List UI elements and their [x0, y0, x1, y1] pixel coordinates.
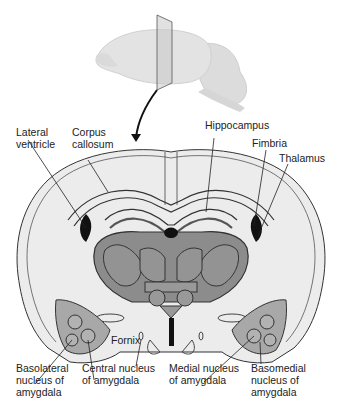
label-thalamus: Thalamus — [279, 152, 325, 164]
section-plane-icon — [157, 15, 172, 90]
label-fimbria: Fimbria — [252, 137, 287, 149]
label-basolateral-nucleus: Basolateral nucleus of amygdala — [16, 362, 69, 398]
arrow-icon — [136, 90, 157, 138]
label-hippocampus: Hippocampus — [205, 119, 269, 131]
label-central-nucleus: Central nucleus of amygdala — [82, 362, 155, 386]
whole-brain-illustration — [96, 15, 247, 112]
coronal-section — [17, 150, 325, 363]
brain-diagram — [0, 0, 342, 409]
label-corpus-callosum: Corpus callosum — [72, 126, 113, 150]
label-basomedial-nucleus: Basomedial nucleus of amygdala — [251, 362, 306, 398]
label-fornix: Fornix — [111, 334, 140, 346]
label-medial-nucleus: Medial nucleus of amygdala — [169, 362, 239, 386]
label-lateral-ventricle: Lateral ventricle — [16, 126, 55, 150]
